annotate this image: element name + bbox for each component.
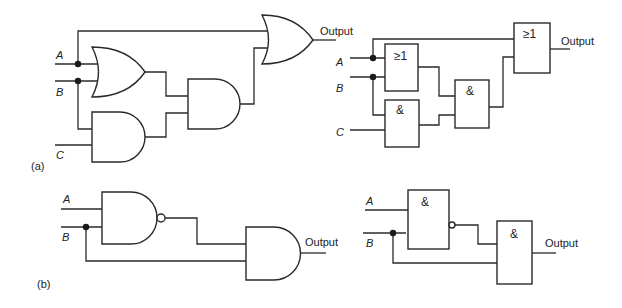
label-input-a: A [335,56,343,68]
wire-nand-to-and [165,218,246,244]
wire-and2-to-or2 [240,48,268,104]
label-input-a: A [62,193,70,205]
circuit-b-ansi: A B Output (b) [37,192,338,290]
wire-or-to-mid-and [418,67,455,96]
label-input-b: B [366,237,373,249]
label-input-b: B [56,86,63,98]
label-input-a: A [55,49,63,61]
and-symbol-1: & [421,195,429,209]
label-input-c: C [56,149,64,161]
junction-dot-a [370,55,376,61]
wire-mid-and-to-final-or [489,57,514,107]
wire-nand-to-and [455,225,497,244]
logic-circuits-figure: A B C Output (a) ≥1 & & ≥1 A B C Output [0,0,622,308]
and-gate-2 [188,79,240,129]
wire-b-to-and [373,77,385,115]
wire-or1-to-and2 [145,72,188,96]
and-gate [246,227,301,280]
inversion-bubble [449,222,455,228]
inversion-bubble [157,214,165,222]
label-input-c: C [336,126,344,138]
caption-a: (a) [31,160,44,172]
or-symbol-1: ≥1 [394,49,408,63]
label-input-b: B [336,82,343,94]
and-symbol-2: & [466,84,474,98]
circuit-b-iec: & & A B Output [363,190,578,284]
wire-b-to-and1 [78,81,92,129]
circuit-a-ansi: A B C Output (a) [31,15,353,172]
junction-dot-b [83,224,89,230]
junction-dot-b [370,74,376,80]
label-output: Output [320,25,353,37]
or-symbol-2: ≥1 [523,27,537,41]
nand-gate [102,192,157,244]
caption-b: (b) [37,278,50,290]
label-output: Output [545,237,578,249]
label-output: Output [305,236,338,248]
junction-dot-b [75,78,81,84]
and-symbol-1: & [396,103,404,117]
wire-and1-to-and2 [145,113,188,137]
and-symbol-2: & [510,227,518,241]
or-gate-2 [262,15,313,64]
circuit-a-iec: ≥1 & & ≥1 A B C Output [335,23,594,147]
label-input-a: A [365,195,373,207]
or-gate-1 [92,47,145,97]
wire-and-to-mid-and [419,115,455,125]
and-gate-1 [92,112,145,162]
label-input-b: B [62,231,69,243]
junction-dot-a [75,61,81,67]
label-output: Output [561,35,594,47]
junction-dot-b [390,230,396,236]
